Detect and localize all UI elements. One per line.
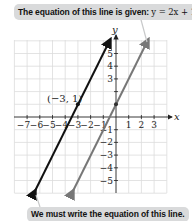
- svg-text:−6: −6: [30, 120, 44, 130]
- given-equation: y = 2x + 1.: [151, 7, 192, 17]
- svg-text:−3: −3: [100, 150, 114, 160]
- svg-text:1: 1: [126, 120, 132, 130]
- svg-text:−7: −7: [17, 120, 31, 130]
- svg-text:−2: −2: [80, 120, 93, 130]
- given-equation-text: The equation of this line is given:: [18, 7, 151, 17]
- svg-text:−5: −5: [42, 120, 56, 130]
- y-axis-label: y: [111, 24, 118, 35]
- svg-text:−5: −5: [100, 176, 114, 186]
- svg-text:−2: −2: [100, 137, 113, 147]
- x-axis-label: x: [174, 111, 180, 122]
- svg-text:2: 2: [139, 120, 145, 130]
- coordinate-graph: −7 −6 −5 −4 −3 −2 −1 1 2 3 5 4 3 −1 −2 −…: [0, 0, 192, 221]
- svg-text:3: 3: [151, 120, 157, 130]
- task-callout: We must write the equation of this line.: [27, 207, 189, 221]
- task-callout-text: We must write the equation of this line.: [31, 209, 185, 219]
- point-label: (−3, 1): [47, 93, 82, 104]
- bottom-callout-pointer: [36, 195, 40, 207]
- svg-text:3: 3: [107, 74, 113, 84]
- parallel-line: [34, 42, 109, 193]
- x-tick-labels: −7 −6 −5 −4 −3 −2 −1 1 2 3: [17, 120, 157, 130]
- svg-text:−4: −4: [100, 163, 114, 173]
- given-equation-callout: The equation of this line is given: y = …: [14, 4, 192, 20]
- given-line-y-intercept: [114, 102, 118, 106]
- svg-text:5: 5: [107, 49, 113, 59]
- svg-text:4: 4: [107, 61, 113, 71]
